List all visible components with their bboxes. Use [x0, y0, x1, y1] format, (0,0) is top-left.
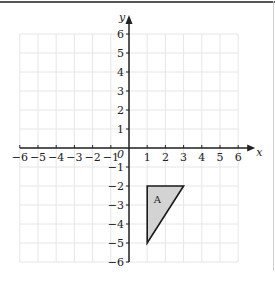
y-tick-label: −6 — [108, 256, 124, 269]
x-tick-label: 1 — [144, 151, 151, 164]
shape-label-a: A — [153, 194, 162, 205]
origin-label: 0 — [117, 148, 124, 161]
x-tick-label: −2 — [84, 151, 100, 164]
x-tick-label: −6 — [12, 151, 28, 164]
y-tick-label: −4 — [108, 218, 124, 231]
coordinate-grid: A −6−5−4−3−2−1123456654321−1−2−3−4−5−60x… — [0, 0, 275, 285]
x-tick-label: 2 — [162, 151, 169, 164]
y-tick-label: −2 — [108, 180, 124, 193]
x-tick-label: 5 — [217, 151, 224, 164]
y-tick-label: −5 — [108, 237, 124, 250]
y-tick-label: 1 — [117, 123, 124, 136]
x-tick-label: −4 — [48, 151, 64, 164]
y-tick-label: 3 — [117, 85, 124, 98]
x-tick-label: 3 — [180, 151, 187, 164]
y-tick-label: 6 — [117, 28, 124, 41]
y-tick-label: 5 — [117, 47, 124, 60]
x-tick-label: −3 — [66, 151, 82, 164]
y-tick-label: 2 — [117, 104, 124, 117]
x-tick-label: 6 — [235, 151, 242, 164]
y-tick-label: 4 — [117, 66, 124, 79]
y-axis-arrow-icon — [126, 15, 133, 24]
y-tick-label: −3 — [108, 199, 124, 212]
x-axis-label: x — [256, 146, 263, 159]
y-tick-label: −1 — [108, 161, 124, 174]
y-axis-label: y — [118, 11, 126, 24]
x-axis-arrow-icon — [247, 145, 255, 152]
x-tick-label: −5 — [30, 151, 46, 164]
tick-labels: −6−5−4−3−2−1123456654321−1−2−3−4−5−60xy — [12, 11, 264, 269]
x-tick-label: 4 — [198, 151, 205, 164]
